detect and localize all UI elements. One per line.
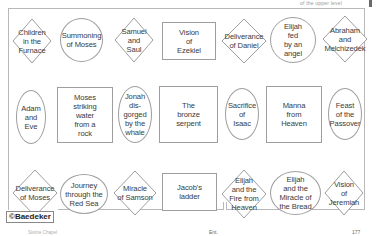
panel-label: Elijah and the Fire from Heaven (221, 169, 267, 219)
copyright-credit: ©Baedeker (6, 211, 54, 223)
panel-sacrifice-of-isaac: Sacrifice of Isaac (225, 88, 259, 140)
panel-vision-of-jeremiah: Vision of Jeremiah (324, 170, 364, 216)
page-number: 177 (352, 229, 360, 235)
panel-moses-striking-water: Moses striking water from a rock (57, 87, 113, 143)
panel-children-in-the-furnace: Children in the Furnace (12, 18, 52, 64)
panel-the-bronze-serpent: The bronze serpent (159, 86, 218, 143)
panel-feast-of-the-passover: Feast of the Passover (328, 88, 362, 140)
panel-label: Elijah and the Miracle of the Bread (271, 172, 320, 214)
page-edge-mark (369, 0, 372, 7)
panel-label: Jacob's ladder (163, 174, 216, 210)
panel-elijah-and-the-fire-from-heaven: Elijah and the Fire from Heaven (221, 169, 267, 219)
panel-label: Journey through the Red Sea (61, 175, 107, 213)
panel-label: Adam and Eve (17, 91, 45, 143)
panel-label: Elijah fed by an angel (271, 18, 315, 62)
panel-label: Abraham and Melchizedek (322, 15, 368, 63)
panel-journey-through-the-red-sea: Journey through the Red Sea (60, 174, 108, 214)
panel-label: Moses striking water from a rock (58, 88, 112, 142)
panel-label: Summoning of Moses (61, 19, 102, 61)
panel-summoning-of-moses: Summoning of Moses (60, 18, 103, 62)
panel-label: Miracle of Samson (113, 170, 157, 216)
panel-label: Children in the Furnace (12, 18, 52, 64)
panel-vision-of-ezekiel: Vision of Ezekiel (162, 22, 216, 60)
panel-label: Feast of the Passover (329, 89, 361, 139)
entrance-label: Ent. (209, 229, 218, 235)
panel-label: Vision of Jeremiah (324, 170, 364, 216)
panel-deliverance-of-moses: Deliverance of Moses (12, 169, 58, 217)
footer-left-text: Sistine Chapel (28, 230, 57, 235)
panel-deliverance-of-daniel: Deliverance of Daniel (221, 18, 267, 64)
running-header: of the upper level (300, 0, 342, 6)
panel-jacobs-ladder: Jacob's ladder (162, 173, 217, 211)
panel-elijah-and-the-miracle-of-the-bread: Elijah and the Miracle of the Bread (270, 171, 321, 215)
panel-label: The bronze serpent (160, 87, 217, 142)
panel-samuel-and-saul: Samuel and Saul (114, 17, 154, 63)
panel-label: Jonah dis- gorged by the whale (119, 87, 151, 142)
panel-manna-from-heaven: Manna from Heaven (266, 86, 322, 143)
panel-label: Samuel and Saul (114, 17, 154, 63)
panel-miracle-of-samson: Miracle of Samson (113, 170, 157, 216)
panel-abraham-and-melchizedek: Abraham and Melchizedek (322, 15, 368, 63)
panel-label: Deliverance of Moses (12, 169, 58, 217)
panel-elijah-fed-by-an-angel: Elijah fed by an angel (270, 17, 316, 63)
panel-jonah-disgorged-by-the-whale: Jonah dis- gorged by the whale (118, 86, 152, 143)
panel-label: Vision of Ezekiel (163, 23, 215, 59)
panel-label: Sacrifice of Isaac (226, 89, 258, 139)
panel-label: Deliverance of Daniel (221, 18, 267, 64)
panel-label: Manna from Heaven (267, 87, 321, 142)
panel-adam-and-eve: Adam and Eve (16, 90, 46, 144)
